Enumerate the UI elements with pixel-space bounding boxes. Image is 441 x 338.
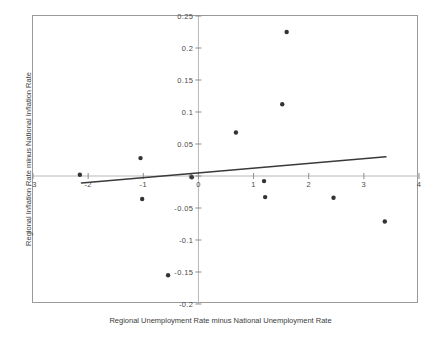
y-tick-label: 0.1 [182,108,194,117]
x-axis-title: Regional Unemployment Rate minus Nationa… [0,316,441,325]
x-tick-label: 1 [251,180,256,189]
y-tick-label: 0.05 [177,140,193,149]
x-tick-label: 3 [362,180,367,189]
y-tick-label: 0.25 [177,12,193,21]
x-tick-label: -1 [140,180,147,189]
x-tick-label: 4 [417,180,422,189]
y-tick-label: 0 [189,172,194,181]
x-tick-label: 2 [306,180,311,189]
data-point [263,195,267,199]
y-tick-label: 0.15 [177,76,193,85]
data-point [262,179,266,183]
data-point-group [78,30,387,278]
regression-line [82,157,386,183]
data-point [383,219,387,223]
y-tick-label: -0.05 [174,204,193,213]
plot-marks-layer [33,16,419,304]
scatter-plot-figure: -3-2-101234-0.2-0.15-0.1-0.0500.050.10.1… [0,0,441,338]
data-point [331,196,335,200]
data-point [284,30,288,34]
x-tick-label: -2 [84,180,91,189]
x-tick-label: 0 [196,180,201,189]
plot-area: -3-2-101234-0.2-0.15-0.1-0.0500.050.10.1… [33,16,417,302]
data-point [78,173,82,177]
plot-frame: -3-2-101234-0.2-0.15-0.1-0.0500.050.10.1… [32,15,418,303]
data-point [280,102,284,106]
y-tick-label: -0.2 [179,300,194,309]
y-axis-title: Regional Inflation Rate minus National I… [22,15,36,303]
y-tick-label: -0.1 [179,236,194,245]
data-point [234,130,238,134]
data-point [138,156,142,160]
y-tick-label: -0.15 [174,268,193,277]
data-point [140,197,144,201]
data-point [166,273,170,277]
y-tick-label: 0.2 [182,44,194,53]
